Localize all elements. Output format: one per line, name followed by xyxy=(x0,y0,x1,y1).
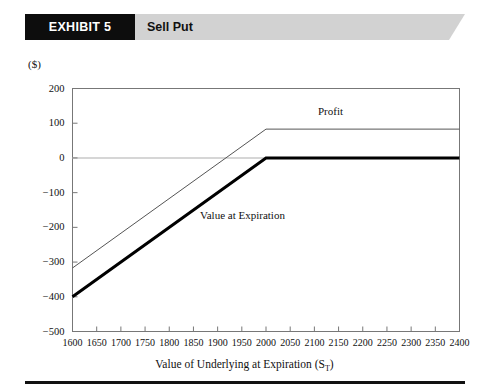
x-axis-title: Value of Underlying at Expiration (ST) xyxy=(0,358,489,373)
series-line-profit xyxy=(73,129,460,268)
plot-canvas xyxy=(0,0,489,392)
bottom-divider-rule xyxy=(25,381,465,384)
x-axis-title-text: Value of Underlying at Expiration (S xyxy=(155,358,325,370)
series-label-value-at-expiration: Value at Expiration xyxy=(200,209,285,221)
x-axis-title-suffix: ) xyxy=(330,358,334,370)
series-label-profit: Profit xyxy=(318,105,343,117)
series-line-value-at-expiration xyxy=(73,158,460,297)
payoff-chart: ($) 2001000−100−200−300−400−500 16001650… xyxy=(0,0,489,392)
